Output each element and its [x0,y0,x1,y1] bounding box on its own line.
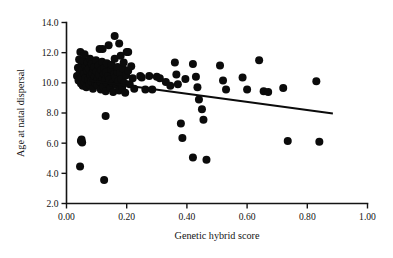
plot-svg: 0.000.200.400.600.801.00 2.04.06.08.010.… [0,0,393,258]
data-point [202,156,210,164]
x-axis-tick-labels: 0.000.200.400.600.801.00 [58,211,376,222]
data-point [77,137,85,145]
data-point [145,72,153,80]
regression-trendline [89,81,333,114]
plot-axes: 0.000.200.400.600.801.00 2.04.06.08.010.… [42,17,376,222]
data-point [76,163,84,171]
y-tick-label: 6.0 [47,138,59,149]
data-point [102,112,110,120]
x-tick-label: 0.40 [179,211,196,222]
x-tick-label: 0.20 [118,211,135,222]
data-point [243,86,251,94]
y-tick-label: 2.0 [47,198,59,209]
data-point [99,45,107,53]
y-tick-label: 8.0 [47,107,59,118]
data-point [315,138,323,146]
data-point [111,32,119,40]
data-point [174,80,182,88]
data-point [255,56,263,64]
y-axis-tick-labels: 2.04.06.08.010.012.014.0 [42,17,59,209]
x-tick-label: 0.00 [58,211,75,222]
data-point [115,40,123,48]
data-point [127,62,135,70]
data-point [172,71,180,79]
data-point [193,83,201,91]
data-point [100,176,108,184]
scatter-plot-figure: 0.000.200.400.600.801.00 2.04.06.08.010.… [0,0,393,258]
data-point [198,105,206,113]
data-point [138,74,146,82]
y-tick-label: 10.0 [42,77,59,88]
x-axis-title: Genetic hybrid score [175,230,260,241]
data-point [120,58,128,66]
data-point [312,77,320,85]
data-point [216,61,224,69]
data-point [166,82,174,90]
x-tick-label: 1.00 [359,211,376,222]
data-point [189,60,197,68]
data-point [284,137,292,145]
data-point [171,58,179,66]
data-point [129,74,137,82]
y-axis-title: Age at natal dispersal [15,69,26,157]
data-point [124,48,132,56]
data-point [181,75,189,83]
data-point [192,73,200,81]
data-point [279,84,287,92]
data-point [239,74,247,82]
data-point [219,77,227,85]
x-tick-label: 0.60 [239,211,256,222]
data-point [189,154,197,162]
data-point [177,120,185,128]
data-point [121,89,129,97]
y-tick-label: 12.0 [42,47,59,58]
data-point [199,116,207,124]
data-point [178,134,186,142]
data-point [264,88,272,96]
data-point [222,86,230,94]
y-tick-label: 14.0 [42,17,59,28]
x-tick-label: 0.80 [299,211,316,222]
y-tick-label: 4.0 [47,168,59,179]
